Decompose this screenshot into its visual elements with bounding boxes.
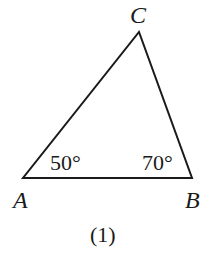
- vertex-label-b: B: [185, 188, 200, 212]
- angle-label-b: 70°: [142, 152, 173, 174]
- vertex-label-a: A: [13, 188, 28, 212]
- vertex-label-c: C: [130, 3, 146, 27]
- figure-caption: (1): [90, 224, 116, 246]
- angle-label-a: 50°: [50, 152, 81, 174]
